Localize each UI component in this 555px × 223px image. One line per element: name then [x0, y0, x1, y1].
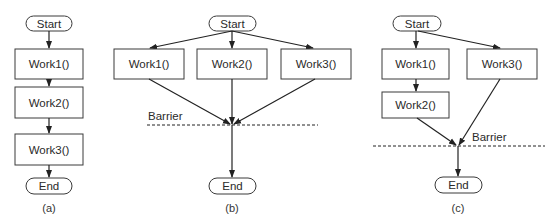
end-label: End	[448, 179, 468, 191]
edge-work2-barrier	[417, 118, 456, 145]
task-node-work2: Work2()	[15, 87, 83, 118]
start-node: Start	[393, 16, 441, 31]
start-label: Start	[37, 18, 62, 30]
task-node-work1: Work1()	[114, 49, 184, 79]
task-label: Work2()	[212, 58, 253, 70]
end-node: End	[435, 177, 482, 193]
caption: (c)	[452, 202, 465, 214]
task-label: Work1()	[395, 58, 436, 70]
flowchart-canvas: Start Work1() Work2() Work3() End (a) St…	[0, 0, 555, 223]
task-label: Work3()	[29, 144, 70, 156]
diagram-c-mixed: Start Work1() Work2() Work3() Barrier En…	[373, 16, 545, 214]
edge-start-work1	[150, 31, 232, 48]
task-node-work3: Work3()	[15, 134, 83, 165]
task-label: Work3()	[296, 58, 337, 70]
task-node-work3: Work3()	[281, 49, 351, 79]
edge-work3-barrier	[234, 79, 315, 124]
end-node: End	[209, 178, 256, 194]
task-node-work2: Work2()	[382, 92, 449, 118]
edge-start-work3	[232, 31, 313, 48]
diagram-b-parallel: Start Work1() Work2() Work3() Barrier En…	[114, 16, 351, 214]
task-node-work2: Work2()	[197, 49, 267, 79]
start-label: Start	[220, 18, 245, 30]
caption: (a)	[42, 202, 55, 214]
barrier-label: Barrier	[472, 131, 507, 143]
diagram-a-sequential: Start Work1() Work2() Work3() End (a)	[15, 16, 83, 214]
start-node: Start	[209, 16, 256, 31]
start-node: Start	[26, 16, 72, 31]
start-label: Start	[405, 18, 430, 30]
task-label: Work3()	[482, 58, 523, 70]
barrier-label: Barrier	[148, 110, 183, 122]
task-label: Work1()	[29, 58, 70, 70]
edge-start-work3	[418, 31, 500, 48]
caption: (b)	[225, 202, 238, 214]
end-label: End	[39, 180, 59, 192]
task-label: Work2()	[395, 99, 436, 111]
task-node-work3: Work3()	[467, 49, 537, 79]
end-node: End	[26, 178, 72, 194]
task-label: Work1()	[129, 58, 170, 70]
end-label: End	[222, 180, 242, 192]
task-node-work1: Work1()	[15, 49, 83, 79]
task-node-work1: Work1()	[382, 49, 449, 79]
task-label: Work2()	[29, 97, 70, 109]
